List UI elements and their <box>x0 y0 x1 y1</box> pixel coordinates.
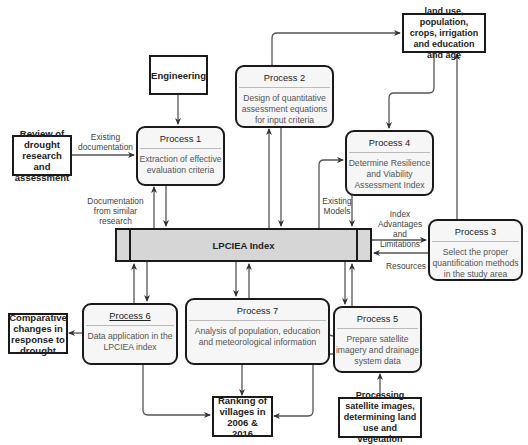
process-7-title: Process 7 <box>189 300 326 321</box>
process-2-body: Design of quantitative assessment equati… <box>237 88 332 126</box>
process-7-body: Analysis of population, education and me… <box>187 321 328 348</box>
process-5-body: Prepare satellite imagery and drainage s… <box>335 329 420 367</box>
process-7: Process 7 Analysis of population, educat… <box>185 298 330 365</box>
process-5-title: Process 5 <box>337 308 418 329</box>
process-1-body: Extraction of effective evaluation crite… <box>138 149 223 176</box>
comparative-entity: Comparative changes in response to droug… <box>8 313 68 354</box>
ranking-label: Ranking of villages in 2006 & 2016 <box>216 395 269 439</box>
process-4-body: Determine Resilience and Viability Asses… <box>347 153 432 191</box>
process-4-title: Process 4 <box>349 132 430 153</box>
process-1: Process 1 Extraction of effective evalua… <box>136 126 225 186</box>
land-use-label: land use, population, crops, irrigation … <box>406 6 482 61</box>
process-3-body: Select the proper quantification methods… <box>430 242 521 280</box>
engineering-label: Engineering <box>151 70 206 81</box>
index-label: LPCIEA Index <box>213 240 275 251</box>
process-3: Process 3 Select the proper quantificati… <box>428 219 523 281</box>
flow-label-existing-models: Existing Models <box>321 196 353 216</box>
comparative-label: Comparative changes in response to droug… <box>9 312 67 356</box>
processing-satellite-entity: Processing satellite images, determining… <box>338 397 422 438</box>
land-use-entity: land use, population, crops, irrigation … <box>402 13 486 53</box>
process-6: Process 6 Data application in the LPCIEA… <box>82 303 178 365</box>
process-3-title: Process 3 <box>432 221 519 242</box>
process-4: Process 4 Determine Resilience and Viabi… <box>345 130 434 196</box>
process-2-title: Process 2 <box>239 67 330 88</box>
flow-label-existing-documentation: Existing documentation <box>78 132 133 152</box>
process-6-title: Process 6 <box>86 305 174 326</box>
process-5: Process 5 Prepare satellite imagery and … <box>333 306 422 373</box>
process-6-title-text: Process 6 <box>109 311 150 321</box>
flow-label-documentation-similar: Documentation from similar research <box>78 196 153 226</box>
process-2: Process 2 Design of quantitative assessm… <box>235 65 334 128</box>
lpciea-index-store: LPCIEA Index <box>115 228 372 262</box>
engineering-entity: Engineering <box>149 55 208 95</box>
review-label: Review of drought research and assessmen… <box>15 128 69 183</box>
review-entity: Review of drought research and assessmen… <box>12 135 72 176</box>
flow-label-index-advantages: Index Advantages and Limitations <box>372 209 428 249</box>
process-1-title: Process 1 <box>140 128 221 149</box>
flow-label-resources: Resources <box>386 261 426 271</box>
process-6-body: Data application in the LPCIEA index <box>84 326 176 353</box>
processing-satellite-label: Processing satellite images, determining… <box>342 390 418 445</box>
ranking-entity: Ranking of villages in 2006 & 2016 <box>212 396 273 437</box>
